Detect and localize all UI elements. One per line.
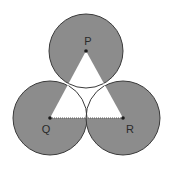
- label-q: Q: [42, 123, 51, 135]
- label-r: R: [126, 123, 134, 135]
- point-q: [48, 116, 52, 120]
- label-p: P: [84, 35, 91, 47]
- tangent-circles-diagram: P Q R: [0, 0, 174, 171]
- point-r: [121, 116, 125, 120]
- point-p: [84, 49, 88, 53]
